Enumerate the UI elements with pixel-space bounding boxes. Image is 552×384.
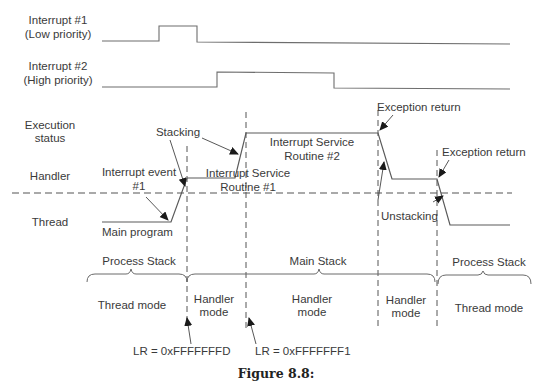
mode-handler-2-2: mode: [298, 306, 327, 318]
process-stack-label-1: Process Stack: [102, 255, 176, 267]
unstacking-label: Unstacking: [381, 210, 438, 222]
main-stack-label: Main Stack: [290, 255, 347, 267]
interrupt-1-priority: (Low priority): [25, 28, 92, 40]
isr1-label-2: Routine #1: [220, 181, 276, 193]
mode-handler-3: Handler: [386, 294, 426, 306]
mode-handler-3-2: mode: [392, 307, 421, 319]
exception-return-arrow-1: [380, 115, 393, 130]
interrupt-event-arrow: [146, 197, 168, 220]
interrupt-1-waveform: [102, 26, 510, 44]
interrupt-2-label: Interrupt #2: [29, 60, 88, 72]
figure-caption: Figure 8.8:: [238, 366, 315, 381]
execution-status-label-2: status: [35, 132, 66, 144]
mode-thread-2: Thread mode: [455, 302, 523, 314]
interrupt-event-label: Interrupt event: [102, 166, 177, 178]
exception-return-arrow-2: [439, 160, 449, 177]
mode-thread-1: Thread mode: [98, 299, 166, 311]
main-stack-brace: [187, 269, 435, 282]
exception-return-label-1: Exception return: [377, 101, 461, 113]
exception-return-label-2: Exception return: [442, 146, 526, 158]
isr2-label-2: Routine #2: [284, 150, 340, 162]
stacking-label: Stacking: [156, 126, 200, 138]
isr1-label: Interrupt Service: [206, 167, 290, 179]
handler-row-label: Handler: [30, 170, 70, 182]
exception-timing-diagram: Interrupt #1 (Low priority) Interrupt #2…: [0, 0, 552, 384]
execution-status-label: Execution: [25, 119, 76, 131]
thread-row-label: Thread: [32, 216, 68, 228]
process-stack-brace-2: [438, 271, 531, 284]
mode-handler-1: Handler: [194, 293, 234, 305]
unstacking-arrow-1: [378, 162, 384, 200]
interrupt-2-priority: (High priority): [23, 74, 92, 86]
lr-value-1: LR = 0xFFFFFFFD: [133, 345, 230, 357]
mode-handler-2: Handler: [292, 293, 332, 305]
interrupt-2-waveform: [102, 72, 510, 89]
lr-arrow-1: [187, 318, 191, 344]
process-stack-label-2: Process Stack: [452, 256, 526, 268]
lr-value-2: LR = 0xFFFFFFF1: [255, 345, 351, 357]
interrupt-event-number: #1: [133, 180, 146, 192]
lr-arrow-2: [249, 318, 256, 344]
isr2-label: Interrupt Service: [270, 136, 354, 148]
unstacking-arrow-2: [433, 196, 443, 202]
process-stack-brace-1: [87, 269, 187, 282]
main-program-label: Main program: [102, 226, 173, 238]
stacking-arrow-2: [202, 138, 238, 154]
mode-handler-1-2: mode: [200, 306, 229, 318]
stacking-arrow-1: [170, 140, 185, 186]
interrupt-1-label: Interrupt #1: [29, 14, 88, 26]
